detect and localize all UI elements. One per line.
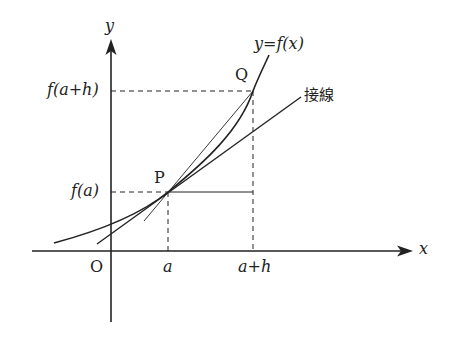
point-p-label: P [154, 170, 165, 186]
curve-label: y=f(x) [254, 36, 304, 52]
x-axis-label: x [419, 241, 428, 257]
x-tick-a: a [163, 259, 173, 275]
diagram-canvas [0, 0, 451, 337]
y-tick-f-a: f(a) [71, 183, 99, 199]
tangent-label: 接線 [304, 88, 334, 103]
y-tick-f-a-plus-h: f(a+h) [47, 82, 99, 98]
x-tick-a-plus-h: a+h [238, 259, 271, 275]
point-q-label: Q [235, 67, 248, 83]
tangent-line [97, 97, 301, 244]
secant-line-pq [144, 91, 253, 221]
origin-label: O [90, 259, 103, 275]
diagram: y x O y=f(x) 接線 P Q a a+h f(a) f(a+h) [0, 0, 451, 337]
y-axis-label: y [105, 18, 114, 34]
